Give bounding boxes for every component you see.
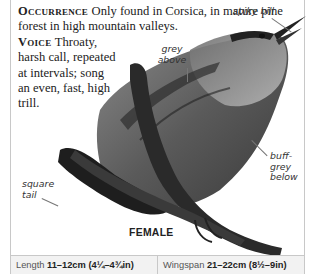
length-cell: Length 11–12cm (4¼–4¾in) bbox=[11, 256, 158, 274]
species-description: Occurrence Only found in Corsica, in mat… bbox=[18, 4, 178, 112]
length-label: Length bbox=[16, 260, 44, 270]
voice-heading: Voice bbox=[18, 35, 55, 49]
measurements-bar: Length 11–12cm (4¼–4¾in) Wingspan 21–22c… bbox=[10, 255, 305, 274]
wingspan-cell: Wingspan 21–22cm (8½–9in) bbox=[158, 256, 287, 274]
occurrence-heading: Occurrence bbox=[18, 4, 92, 18]
length-value: 11–12cm (4¼–4¾in) bbox=[47, 260, 134, 270]
annotation-grey-above: grey above bbox=[156, 44, 188, 65]
wingspan-label: Wingspan bbox=[163, 260, 204, 270]
wingspan-value: 21–22cm (8½–9in) bbox=[207, 260, 287, 270]
voice-paragraph: Voice Throaty, harsh call, repeated at i… bbox=[18, 35, 116, 112]
annotation-square-tail: square tail bbox=[22, 179, 58, 200]
annotation-spiky-bill: spiky bill bbox=[233, 6, 274, 17]
leader-line-grey-above bbox=[187, 68, 188, 82]
annotation-buff-grey-below: buff-grey below bbox=[270, 151, 302, 183]
illustration-caption: FEMALE bbox=[129, 227, 174, 238]
